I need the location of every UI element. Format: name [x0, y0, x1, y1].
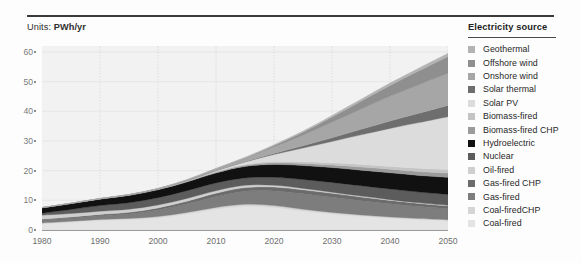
legend-item[interactable]: Coal-firedCHP: [468, 204, 578, 217]
legend-items: GeothermalOffshore windOnshore windSolar…: [468, 43, 578, 230]
area-series-group: [42, 53, 448, 230]
x-tick-label: 1990: [90, 236, 109, 246]
x-tick-label: 2050: [438, 236, 457, 246]
legend-item-label: Coal-firedCHP: [483, 206, 540, 215]
legend-item[interactable]: Onshore wind: [468, 70, 578, 83]
y-tick-mark: [34, 81, 36, 83]
legend: Electricity source GeothermalOffshore wi…: [468, 22, 578, 230]
plot-area: [42, 46, 448, 230]
x-axis-line: [42, 230, 448, 231]
legend-item-label: Hydroelectric: [483, 139, 535, 148]
legend-item[interactable]: Biomass-fired: [468, 110, 578, 123]
legend-item[interactable]: Coal-fired: [468, 217, 578, 230]
y-tick-label: 0: [28, 225, 33, 235]
legend-item-label: Gas-fired: [483, 193, 520, 202]
legend-item-label: Biomass-fired: [483, 112, 537, 121]
legend-swatch-icon: [468, 113, 475, 120]
legend-item[interactable]: Solar thermal: [468, 83, 578, 96]
legend-item-label: Offshore wind: [483, 59, 538, 68]
y-tick-label: 20: [23, 166, 33, 176]
legend-item[interactable]: Geothermal: [468, 43, 578, 56]
chart-figure: Units: PWh/yr 0102030405060 198019902000…: [0, 0, 581, 263]
legend-item-label: Geothermal: [483, 45, 529, 54]
legend-item[interactable]: Nuclear: [468, 150, 578, 163]
legend-swatch-icon: [468, 193, 475, 200]
legend-item-label: Nuclear: [483, 152, 514, 161]
legend-item-label: Onshore wind: [483, 72, 538, 81]
top-divider: [27, 15, 554, 17]
legend-item[interactable]: Oil-fired: [468, 164, 578, 177]
legend-swatch-icon: [468, 46, 475, 53]
x-tick-label: 2000: [148, 236, 167, 246]
y-tick-mark: [34, 51, 36, 53]
legend-item-label: Coal-fired: [483, 219, 522, 228]
legend-item[interactable]: Offshore wind: [468, 56, 578, 69]
y-tick-mark: [34, 140, 36, 142]
legend-divider: [468, 37, 556, 38]
y-tick-label: 50: [23, 77, 33, 87]
legend-swatch-icon: [468, 127, 475, 134]
legend-item[interactable]: Solar PV: [468, 97, 578, 110]
legend-swatch-icon: [468, 180, 475, 187]
y-tick-mark: [34, 170, 36, 172]
legend-item-label: Gas-fired CHP: [483, 179, 541, 188]
legend-item[interactable]: Hydroelectric: [468, 137, 578, 150]
x-tick-label: 2030: [322, 236, 341, 246]
legend-swatch-icon: [468, 100, 475, 107]
units-label: Units:: [27, 22, 51, 32]
x-axis: 19801990200020102020203020402050: [42, 234, 448, 250]
legend-swatch-icon: [468, 207, 475, 214]
y-tick-mark: [34, 229, 36, 231]
legend-item[interactable]: Gas-fired: [468, 190, 578, 203]
x-tick-label: 2040: [380, 236, 399, 246]
y-tick-label: 60: [23, 47, 33, 57]
y-tick-label: 40: [23, 106, 33, 116]
legend-item-label: Solar PV: [483, 99, 518, 108]
legend-item-label: Oil-fired: [483, 166, 514, 175]
y-tick-mark: [34, 199, 36, 201]
units-value: PWh/yr: [54, 22, 86, 32]
units-caption: Units: PWh/yr: [27, 22, 86, 32]
legend-swatch-icon: [468, 86, 475, 93]
y-tick-label: 10: [23, 195, 33, 205]
x-tick-label: 1980: [32, 236, 51, 246]
legend-item-label: Solar thermal: [483, 85, 536, 94]
y-tick-mark: [34, 110, 36, 112]
x-tick-label: 2020: [264, 236, 283, 246]
legend-swatch-icon: [468, 73, 475, 80]
stacked-area-svg: [42, 46, 448, 230]
legend-swatch-icon: [468, 140, 475, 147]
x-tick-label: 2010: [206, 236, 225, 246]
y-tick-label: 30: [23, 136, 33, 146]
legend-title: Electricity source: [468, 22, 578, 32]
legend-swatch-icon: [468, 167, 475, 174]
legend-item[interactable]: Biomass-fired CHP: [468, 123, 578, 136]
legend-swatch-icon: [468, 220, 475, 227]
legend-swatch-icon: [468, 60, 475, 67]
y-axis: 0102030405060: [0, 46, 40, 230]
legend-item[interactable]: Gas-fired CHP: [468, 177, 578, 190]
legend-swatch-icon: [468, 153, 475, 160]
legend-item-label: Biomass-fired CHP: [483, 126, 559, 135]
